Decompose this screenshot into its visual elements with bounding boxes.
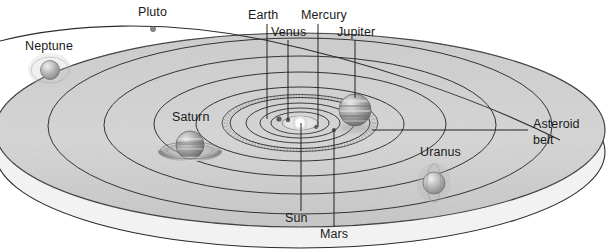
label-pluto: Pluto: [138, 6, 167, 19]
solar-system-diagram: Pluto Neptune Earth Venus Mercury Jupite…: [0, 0, 615, 252]
label-venus: Venus: [271, 26, 306, 39]
planet-earth: [276, 116, 281, 121]
label-neptune: Neptune: [25, 40, 73, 53]
label-saturn: Saturn: [172, 111, 209, 124]
label-sun: Sun: [285, 212, 308, 225]
planet-neptune: [28, 53, 72, 87]
label-jupiter: Jupiter: [337, 26, 375, 39]
label-uranus: Uranus: [420, 146, 461, 159]
label-asteroid-belt-line1: Asteroid: [533, 117, 580, 131]
label-mars: Mars: [320, 228, 348, 241]
label-mercury: Mercury: [301, 9, 347, 22]
planet-mercury: [314, 125, 318, 129]
label-asteroid-belt-line2: belt: [533, 133, 554, 147]
planet-uranus: [417, 163, 451, 203]
planet-pluto: [150, 26, 155, 31]
label-earth: Earth: [248, 9, 278, 22]
